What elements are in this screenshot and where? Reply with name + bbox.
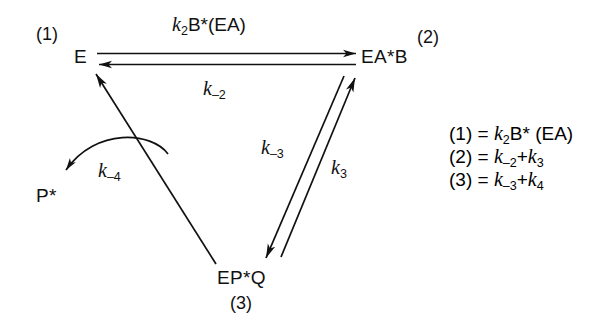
- rate-suffix: B*(EA): [188, 14, 246, 35]
- legend-operator: +: [517, 146, 528, 167]
- rate-subscript: 3: [340, 167, 347, 181]
- rate-subscript: –2: [212, 88, 226, 102]
- legend-tag: (1): [449, 123, 472, 144]
- species-label-p-star: P*: [36, 186, 57, 205]
- legend-k-glyph-2: k: [528, 145, 537, 167]
- rate-subscript: 2: [181, 24, 188, 38]
- legend-equals: =: [478, 123, 489, 144]
- legend-row-1: (1) = k2B* (EA): [449, 122, 573, 145]
- rate-label-k3: k3: [331, 157, 347, 180]
- rate-k-glyph: k: [331, 156, 340, 178]
- legend-equals: =: [478, 169, 489, 190]
- rate-k-glyph: k: [261, 136, 270, 158]
- rate-label-k-minus-2: k–2: [203, 78, 226, 101]
- legend-subscript-2: 4: [537, 179, 544, 193]
- species-label-epq: EP*Q: [217, 268, 266, 287]
- legend-row-3: (3) = k–3+k4: [449, 168, 573, 191]
- reaction-scheme-diagram: E EA*B EP*Q P* (1) (2) (3) k2B*(EA) k–2 …: [0, 0, 610, 326]
- rate-label-k2-forward: k2B*(EA): [172, 14, 246, 37]
- legend-k-glyph-2: k: [528, 168, 537, 190]
- legend-row-2: (2) = k–2+k3: [449, 145, 573, 168]
- legend-subscript: –3: [503, 179, 517, 193]
- rate-subscript: –4: [107, 170, 121, 184]
- legend-equals: =: [478, 146, 489, 167]
- legend-tag: (2): [449, 146, 472, 167]
- rate-k-glyph: k: [203, 77, 212, 99]
- species-label-e: E: [74, 47, 87, 66]
- legend-tag: (3): [449, 169, 472, 190]
- legend-k-glyph: k: [494, 168, 503, 190]
- legend: (1) = k2B* (EA) (2) = k–2+k3 (3) = k–3+k…: [449, 122, 573, 191]
- tag-three: (3): [230, 294, 252, 312]
- legend-operator: +: [517, 169, 528, 190]
- legend-k-glyph: k: [494, 145, 503, 167]
- tag-one: (1): [36, 25, 58, 43]
- legend-suffix: B* (EA): [510, 123, 573, 144]
- rate-subscript: –3: [270, 147, 284, 161]
- rate-label-k-minus-4: k–4: [98, 160, 121, 183]
- rate-label-k-minus-3: k–3: [261, 137, 284, 160]
- tag-two: (2): [417, 28, 439, 46]
- rate-k-glyph: k: [98, 159, 107, 181]
- species-label-eab: EA*B: [361, 47, 408, 66]
- legend-k-glyph: k: [494, 122, 503, 144]
- rate-k-glyph: k: [172, 13, 181, 35]
